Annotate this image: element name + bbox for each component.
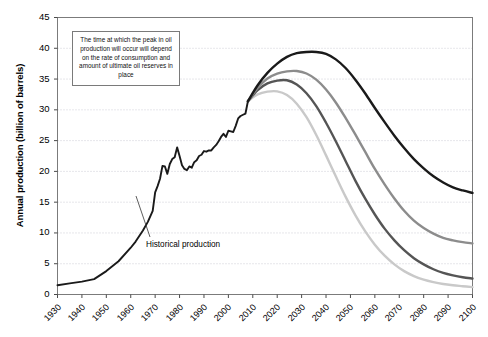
series-line [248, 71, 473, 244]
y-tick-label: 20 [28, 165, 50, 176]
peak-oil-note: The time at which the peak in oil produc… [72, 31, 180, 86]
y-tick-label: 30 [28, 103, 50, 114]
y-tick-label: 5 [28, 257, 50, 268]
y-axis-title: Annual production (billion of barrels) [14, 11, 25, 281]
y-tick-label: 10 [28, 226, 50, 237]
y-tick-label: 0 [28, 288, 50, 299]
oil-production-chart: Annual production (billion of barrels) T… [0, 0, 488, 337]
historical-production-label: Historical production [146, 240, 220, 249]
y-tick-label: 40 [28, 42, 50, 53]
y-tick-label: 35 [28, 73, 50, 84]
y-tick-label: 25 [28, 134, 50, 145]
y-tick-label: 15 [28, 196, 50, 207]
series-line [58, 101, 248, 285]
y-tick-label: 45 [28, 11, 50, 22]
